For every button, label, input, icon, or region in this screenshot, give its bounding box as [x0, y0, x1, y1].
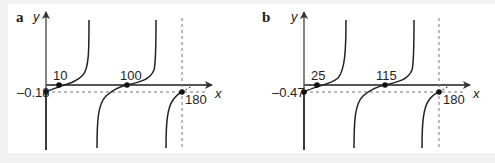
graph-a-x-label: x [214, 86, 222, 101]
graph-b-root1-label: 25 [311, 68, 325, 83]
graph-b-point-root1 [314, 82, 320, 88]
graph-a-branch-3 [166, 92, 182, 148]
graph-a-label: a [16, 9, 24, 25]
graph-a-point-end [179, 89, 185, 95]
graph-a-point-root2 [124, 82, 130, 88]
graph-b-root2-label: 115 [376, 68, 397, 83]
graph-b: b y x –0.47 25 115 180 [262, 9, 480, 150]
graph-a-root1-label: 10 [53, 68, 67, 83]
graph-b-label: b [262, 9, 270, 25]
graph-a-y-label: y [32, 9, 41, 24]
graph-b-x-label: x [472, 86, 480, 101]
figure-svg: a y x –0.18 10 100 180 b y x [0, 0, 495, 163]
graph-a-root2-label: 100 [120, 68, 142, 83]
graph-b-yint-label: –0.47 [272, 85, 305, 100]
graph-b-y-label: y [290, 9, 299, 24]
graph-a-end-label: 180 [185, 92, 207, 107]
graph-b-end-label: 180 [443, 92, 465, 107]
graph-b-point-end [436, 89, 442, 95]
graph-a-yint-label: –0.18 [17, 85, 50, 100]
graph-a: a y x –0.18 10 100 180 [16, 9, 222, 150]
graph-b-point-root2 [382, 82, 388, 88]
graph-b-branch-3 [422, 92, 439, 148]
graph-a-point-root1 [56, 82, 62, 88]
